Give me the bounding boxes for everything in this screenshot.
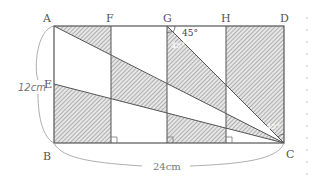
angle-label-g-outer: 45° xyxy=(182,28,198,38)
right-angle-icon xyxy=(111,137,117,143)
angle-label-c: 45° xyxy=(266,122,280,131)
label-a: A xyxy=(42,12,52,25)
label-h: H xyxy=(221,12,231,25)
label-d: D xyxy=(280,12,289,25)
right-angle-icon xyxy=(226,137,232,143)
shade-gh-top xyxy=(167,26,226,113)
angle-label-g-inner: 45° xyxy=(171,41,185,50)
shade-fg-middle xyxy=(111,55,167,113)
geometry-diagram: A F G H D E B C 12cm 24cm 45° 45° 45° xyxy=(0,0,312,181)
label-c: C xyxy=(286,148,294,161)
label-f: F xyxy=(106,12,114,25)
margin-dots xyxy=(306,17,308,175)
label-g: G xyxy=(163,12,172,25)
shade-af-bottom xyxy=(54,84,111,143)
width-dimension-label: 24cm xyxy=(153,161,181,172)
shade-gh-bottom xyxy=(167,113,226,143)
height-dimension-label: 12cm xyxy=(18,82,46,93)
angle-arc-g xyxy=(173,26,175,32)
label-b: B xyxy=(43,150,51,163)
